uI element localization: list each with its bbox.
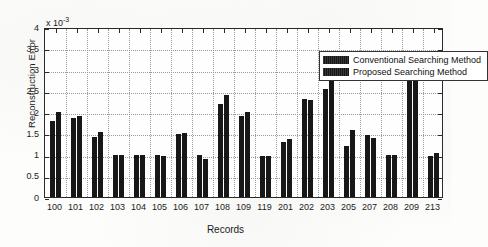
gridline [276,29,277,197]
y-tick-label: 3 [0,66,39,75]
gridline [87,29,88,197]
bar [344,146,349,197]
gridline [150,29,151,197]
bar [218,104,223,197]
bar [119,155,124,197]
x-tick-mark [119,29,120,33]
bar [323,89,328,197]
x-tick-mark [56,29,57,33]
plot-area: Conventional Searching Method Proposed S… [44,28,443,198]
bar [161,156,166,197]
bar [260,156,265,197]
y-tick-label: 4 [0,24,39,33]
x-tick-mark [266,29,267,33]
y-tick-label: 0.5 [0,172,39,181]
bar [371,138,376,197]
gridline [108,29,109,197]
x-tick-mark [140,29,141,33]
gridline [192,29,193,197]
bar [239,116,244,197]
y-tick-mark [45,157,49,158]
y-tick-mark [45,135,49,136]
y-tick-label: 0 [0,194,39,203]
bar [245,112,250,197]
legend-swatch-icon [323,56,349,64]
gridline [129,29,130,197]
y-tick-mark [438,135,442,136]
bar [50,121,55,197]
x-tick-mark [245,29,246,33]
bar [203,159,208,197]
bar [350,130,355,197]
gridline [255,29,256,197]
bar [98,132,103,197]
y-tick-mark [45,50,49,51]
gridline [213,29,214,197]
bar [281,142,286,197]
bar [287,139,292,197]
bar [407,65,412,197]
x-tick-mark [161,29,162,33]
bar [155,155,160,197]
y-tick-mark [45,72,49,73]
x-tick-mark [434,29,435,33]
gridline [45,93,442,94]
x-tick-mark [77,29,78,33]
bar [266,156,271,197]
bar [224,95,229,197]
chart-legend[interactable]: Conventional Searching Method Proposed S… [319,51,488,81]
y-tick-mark [45,29,49,30]
y-axis-multiplier: x 10-3 [46,16,69,28]
gridline [297,29,298,197]
bar [329,80,334,197]
x-tick-mark [287,29,288,33]
legend-item-conventional[interactable]: Conventional Searching Method [323,55,484,66]
y-tick-label: 1 [0,151,39,160]
bar [365,135,370,197]
y-tick-label: 2 [0,109,39,118]
x-tick-label: 213 [420,203,446,212]
y-tick-mark [438,29,442,30]
bar [113,155,118,197]
bar [56,112,61,197]
y-tick-label: 2.5 [0,87,39,96]
bar [77,116,82,197]
x-tick-mark [329,29,330,33]
legend-label: Proposed Searching Method [353,67,467,77]
legend-item-proposed[interactable]: Proposed Searching Method [323,66,484,77]
y-tick-mark [438,199,442,200]
y-tick-mark [45,114,49,115]
x-tick-mark [371,29,372,33]
bar [302,99,307,197]
x-tick-mark [308,29,309,33]
x-tick-mark [413,29,414,33]
y-tick-label: 3.5 [0,45,39,54]
y-axis-multiplier-base: x 10 [46,18,63,28]
bar [392,155,397,197]
gridline [45,114,442,115]
x-tick-mark [182,29,183,33]
y-tick-mark [45,199,49,200]
bar [428,156,433,197]
gridline [234,29,235,197]
y-tick-mark [438,93,442,94]
bar [176,134,181,197]
legend-label: Conventional Searching Method [353,55,481,65]
bar [182,133,187,197]
y-tick-mark [45,93,49,94]
bar [308,100,313,197]
x-tick-mark [98,29,99,33]
y-axis-multiplier-exponent: -3 [63,16,69,23]
bar [71,118,76,197]
bar [434,153,439,197]
bar [92,137,97,197]
x-tick-mark [224,29,225,33]
x-tick-mark [350,29,351,33]
bar [140,155,145,197]
bar [197,155,202,197]
bar [134,155,139,197]
x-axis-title: Records [0,224,451,235]
x-tick-mark [203,29,204,33]
legend-swatch-icon [323,68,349,76]
